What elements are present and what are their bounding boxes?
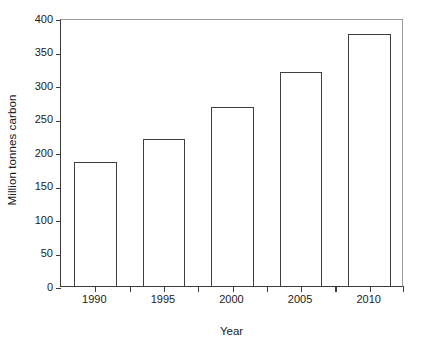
x-tick-label: 2010 (334, 294, 403, 305)
y-axis-title-text: Million tonnes carbon (6, 95, 18, 206)
y-tick-mark (56, 288, 61, 289)
y-axis-tick-labels: 050100150200250300350400 (19, 0, 53, 354)
y-tick-label: 300 (19, 81, 53, 92)
x-tick-mark (198, 286, 199, 292)
x-tick-label: 1990 (60, 294, 129, 305)
y-tick-label: 0 (19, 282, 53, 293)
y-tick-mark (56, 20, 61, 21)
x-tick-mark-minor (164, 286, 165, 292)
y-tick-mark (56, 221, 61, 222)
y-tick-label: 250 (19, 114, 53, 125)
y-tick-mark (56, 255, 61, 256)
y-tick-label: 400 (19, 14, 53, 25)
y-tick-label: 50 (19, 248, 53, 259)
x-tick-mark (403, 286, 404, 292)
x-tick-mark-minor (370, 286, 371, 292)
bar (211, 107, 254, 286)
x-tick-label: 1995 (129, 294, 198, 305)
y-tick-mark (56, 188, 61, 189)
x-tick-mark-minor (233, 286, 234, 292)
y-tick-label: 150 (19, 181, 53, 192)
bar (280, 72, 323, 286)
y-tick-label: 200 (19, 148, 53, 159)
bar (348, 34, 391, 286)
x-tick-mark (130, 286, 131, 292)
x-tick-mark (335, 286, 336, 292)
bar (74, 162, 117, 286)
plot-area (60, 19, 403, 287)
y-tick-mark (56, 87, 61, 88)
x-tick-mark-minor (301, 286, 302, 292)
y-tick-label: 350 (19, 47, 53, 58)
x-tick-label: 2005 (266, 294, 335, 305)
bar-chart: Million tonnes carbon 050100150200250300… (0, 0, 421, 354)
y-tick-mark (56, 154, 61, 155)
x-tick-label: 2000 (197, 294, 266, 305)
y-tick-mark (56, 54, 61, 55)
x-axis-tick-labels: 19901995200020052010 (60, 294, 403, 310)
y-tick-label: 100 (19, 215, 53, 226)
bar (143, 139, 186, 286)
x-axis-title: Year (60, 325, 403, 337)
x-tick-mark-minor (95, 286, 96, 292)
x-tick-mark (267, 286, 268, 292)
y-tick-mark (56, 121, 61, 122)
